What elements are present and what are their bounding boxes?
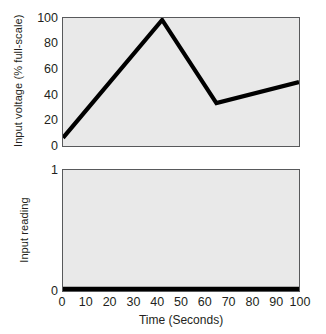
input-reading-plot-panel <box>62 169 300 292</box>
input-reading-plot-area <box>63 170 299 291</box>
x-tick-label: 50 <box>174 295 188 309</box>
x-tick-label: 70 <box>222 295 236 309</box>
x-tick-label: 30 <box>126 295 140 309</box>
y-tick-label: 1 <box>26 164 58 176</box>
x-tick-label: 0 <box>59 295 66 309</box>
x-tick-label: 60 <box>198 295 212 309</box>
x-tick-label: 80 <box>245 295 259 309</box>
x-tick-label: 20 <box>103 295 117 309</box>
input-voltage-line <box>63 20 299 138</box>
top-panel-y-axis-title: Input voltage (% full-scale) <box>11 15 25 147</box>
input-voltage-plot-panel <box>62 17 300 147</box>
x-axis-title: Time (Seconds) <box>62 313 300 327</box>
x-tick-label: 40 <box>150 295 164 309</box>
chart-figure: Input voltage (% full-scale) 100 80 60 4… <box>0 0 326 334</box>
bottom-panel-y-tick-labels: 1 0 <box>26 0 58 334</box>
x-tick-label: 100 <box>290 295 311 309</box>
x-tick-labels: 0102030405060708090100 <box>62 295 300 311</box>
x-tick-label: 90 <box>269 295 283 309</box>
y-tick-label: 0 <box>26 285 58 297</box>
x-tick-label: 10 <box>79 295 93 309</box>
input-voltage-plot-area <box>63 18 299 146</box>
